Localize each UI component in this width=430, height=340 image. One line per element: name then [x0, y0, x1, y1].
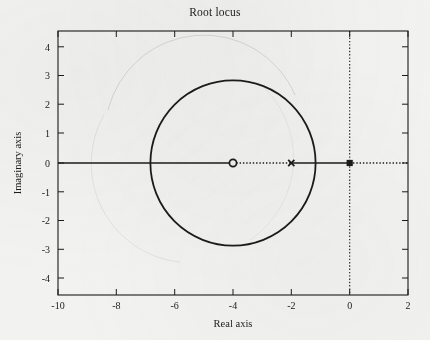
plot-canvas: -10 -8 -6 -4 -2 0 2 4 3 2 1 0 -1 -2 -3 -… — [0, 0, 430, 340]
y-tick-label: -2 — [42, 215, 50, 226]
open-loop-zero-marker — [229, 159, 236, 166]
root-locus-figure: Root locus — [0, 0, 430, 340]
y-tick-label: 1 — [45, 128, 50, 139]
bleed-through-arc — [91, 35, 295, 262]
y-tick-label: 3 — [45, 70, 50, 81]
open-loop-pole-square-marker — [347, 160, 353, 166]
y-tick-label: 0 — [45, 158, 50, 169]
y-tick-label: 2 — [45, 99, 50, 110]
x-tick-label: -2 — [287, 300, 295, 311]
x-tick-label: -8 — [112, 300, 120, 311]
x-axis-title: Real axis — [214, 318, 253, 329]
y-tick-label: -1 — [42, 187, 50, 198]
y-tick-label: 4 — [45, 42, 50, 53]
x-tick-label: -4 — [229, 300, 237, 311]
x-tick-label: 2 — [406, 300, 411, 311]
x-tick-label: -6 — [171, 300, 179, 311]
y-axis-title: Imaginary axis — [12, 132, 23, 195]
x-tick-label: 0 — [347, 300, 352, 311]
y-tick-label: -4 — [42, 273, 50, 284]
x-tick-labels: -10 -8 -6 -4 -2 0 2 — [51, 300, 410, 311]
y-tick-labels: 4 3 2 1 0 -1 -2 -3 -4 — [42, 42, 50, 284]
x-tick-label: -10 — [51, 300, 64, 311]
y-tick-label: -3 — [42, 244, 50, 255]
